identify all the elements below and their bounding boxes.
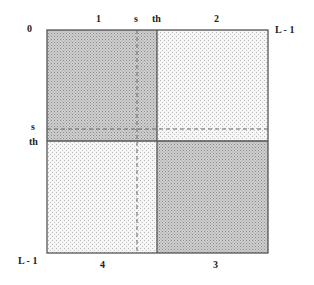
s-left-label: s <box>31 122 35 132</box>
s-top-label: s <box>134 14 138 24</box>
region-3-label: 3 <box>213 260 218 270</box>
l-minus-1-bottom-label: L - 1 <box>18 256 37 266</box>
l-minus-1-right-label: L - 1 <box>275 25 294 35</box>
region-4-label: 4 <box>100 260 105 270</box>
region-2-label: 2 <box>214 14 219 24</box>
threshold-diagram <box>0 0 314 285</box>
th-top-label: th <box>152 14 161 24</box>
region-3 <box>157 141 268 253</box>
th-left-label: th <box>29 137 38 147</box>
region-1 <box>47 30 157 141</box>
region-2 <box>157 30 268 141</box>
region-4 <box>47 141 157 253</box>
origin-label: 0 <box>27 24 32 34</box>
region-1-label: 1 <box>96 14 101 24</box>
